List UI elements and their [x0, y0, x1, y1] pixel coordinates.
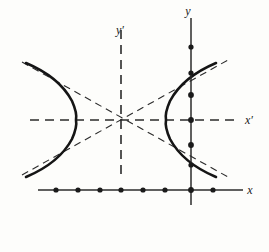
hyperbola-figure: y x y′ x′	[0, 0, 269, 252]
y-prime-axis-label: y′	[115, 23, 124, 37]
y-axis-dot	[188, 92, 194, 98]
unprimed-axes-group	[38, 18, 243, 205]
x-axis-dot	[188, 187, 194, 193]
x-axis-dot	[210, 187, 215, 192]
x-axis-dot	[118, 187, 123, 192]
x-axis-dot	[53, 187, 58, 192]
x-axis-dot	[140, 187, 145, 192]
y-axis-label: y	[184, 4, 191, 18]
x-prime-axis-label: x′	[244, 113, 253, 127]
x-axis-dot	[75, 187, 80, 192]
x-axis-dot	[97, 187, 102, 192]
y-axis-dot	[188, 162, 193, 167]
x-axis-dot	[162, 187, 167, 192]
y-axis-dot	[188, 142, 194, 148]
y-axis-dot	[188, 117, 194, 123]
y-axis-dot	[188, 70, 193, 75]
figure-canvas: y x y′ x′	[0, 0, 269, 252]
x-axis-label: x	[246, 183, 253, 197]
y-axis-dot	[188, 44, 193, 49]
